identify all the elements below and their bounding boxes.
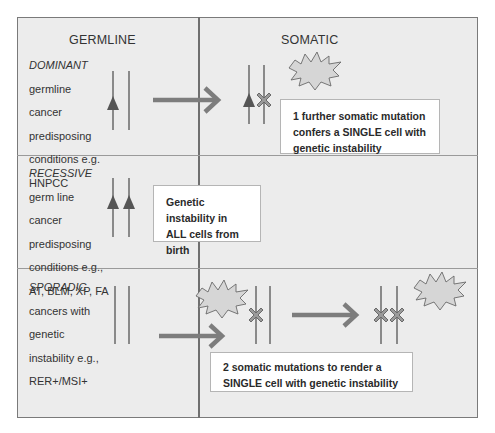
chromosome-pair-dominant: [107, 71, 129, 130]
arrow-right-icon: [159, 325, 222, 347]
note-recessive: Genetic instability in ALL cells from bi…: [153, 185, 261, 242]
instability-star-icon: [289, 52, 341, 90]
arrow-right-icon: [292, 304, 356, 326]
chromosome-pair-sporadic-1: [249, 286, 270, 344]
instability-star-icon: [196, 280, 248, 318]
chromosome-pair-sporadic: [115, 286, 129, 344]
note-dominant: 1 further somatic mutation confers a SIN…: [280, 99, 440, 154]
chromosome-pair-sporadic-2: [374, 286, 404, 344]
chromosome-pair-recessive: [107, 178, 135, 237]
instability-star-icon: [414, 272, 466, 310]
arrow-right-icon: [153, 88, 218, 112]
chromosome-pair-dominant-somatic: [243, 65, 271, 124]
note-sporadic: 2 somatic mutations to render a SINGLE c…: [210, 352, 413, 392]
